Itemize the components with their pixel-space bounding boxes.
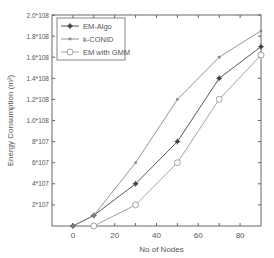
legend-label: EM-Algo	[83, 22, 112, 31]
y-tick-label: 1.6*108	[27, 54, 50, 61]
y-tick-label: 2*107	[32, 201, 49, 208]
marker-dot	[218, 56, 221, 59]
series-line-em-algo	[73, 47, 261, 226]
y-tick-label: 1.8*108	[27, 33, 50, 40]
marker-circle	[67, 49, 73, 55]
y-tick-label: 1.4*108	[27, 75, 50, 82]
marker-circle	[133, 202, 139, 208]
x-tick-label: 60	[194, 231, 203, 240]
x-axis-label: No of Nodes	[139, 245, 183, 254]
y-tick-label: 2.0*108	[27, 12, 50, 19]
marker-dot	[176, 98, 179, 101]
line-chart: 0204060802*1074*1076*1078*1071.0*1081.2*…	[0, 0, 274, 258]
legend-label: EM with GMM	[83, 48, 130, 57]
y-tick-label: 4*107	[32, 180, 49, 187]
y-axis-label: Energy Consumption (m²)	[6, 74, 15, 166]
marker-dot	[260, 29, 263, 32]
plot-area: 0204060802*1074*1076*1078*1071.0*1081.2*…	[6, 12, 264, 255]
x-tick-label: 20	[110, 231, 119, 240]
y-tick-label: 1.2*108	[27, 96, 50, 103]
legend-label: k-CONID	[83, 35, 114, 44]
marker-dot	[69, 38, 72, 41]
x-tick-label: 80	[236, 231, 245, 240]
y-tick-label: 6*107	[32, 159, 49, 166]
marker-dot	[134, 161, 137, 164]
marker-circle	[216, 96, 222, 102]
marker-circle	[91, 223, 97, 229]
marker-circle	[174, 160, 180, 166]
x-tick-label: 40	[152, 231, 161, 240]
marker-dot	[72, 225, 75, 228]
y-tick-label: 8*107	[32, 138, 49, 145]
marker-circle	[258, 52, 264, 58]
marker-dot	[92, 214, 95, 217]
y-tick-label: 1.0*108	[27, 117, 50, 124]
x-tick-label: 0	[71, 231, 76, 240]
